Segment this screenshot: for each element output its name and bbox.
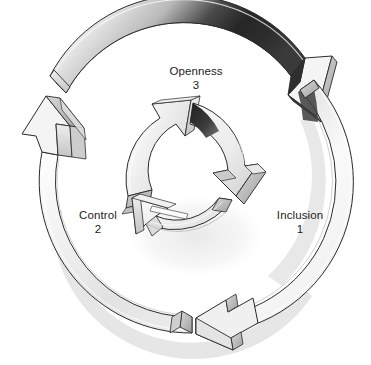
label-openness: Openness 3 bbox=[148, 64, 244, 92]
label-inclusion-text: Inclusion bbox=[277, 209, 323, 221]
label-control-text: Control bbox=[79, 209, 117, 221]
label-control-number: 2 bbox=[50, 222, 146, 236]
label-inclusion: Inclusion 1 bbox=[252, 208, 348, 236]
diagram-canvas bbox=[0, 0, 371, 365]
label-openness-number: 3 bbox=[148, 78, 244, 92]
cycle-diagram: Openness 3 Inclusion 1 Control 2 bbox=[0, 0, 371, 365]
label-inclusion-number: 1 bbox=[252, 222, 348, 236]
label-openness-text: Openness bbox=[169, 65, 222, 77]
label-control: Control 2 bbox=[50, 208, 146, 236]
inner-arrow-segment-inclusion bbox=[190, 103, 266, 204]
